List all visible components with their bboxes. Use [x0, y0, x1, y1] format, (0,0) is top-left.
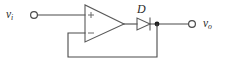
output-voltage-label: vo	[203, 18, 212, 31]
input-voltage-label: vi	[6, 9, 13, 22]
circuit-figure: vi D vo	[0, 0, 227, 66]
diode-anode-triangle	[137, 18, 150, 30]
diode-label: D	[137, 3, 146, 15]
opamp-body	[85, 5, 124, 42]
circuit-schematic-svg	[0, 0, 227, 66]
output-terminal-circle	[189, 21, 196, 28]
plus-sign-icon	[88, 12, 94, 18]
input-terminal-circle	[31, 12, 38, 19]
